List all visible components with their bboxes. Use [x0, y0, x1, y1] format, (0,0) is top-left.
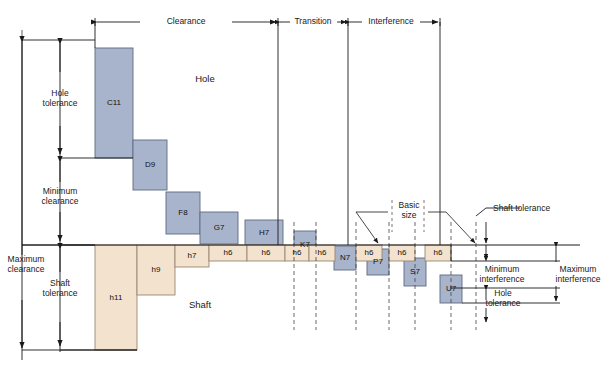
zone-label-h6-8: h6 [389, 248, 415, 257]
dimension-label-hole-tolerance: Hole tolerance [26, 88, 94, 108]
zone-label-p7-7: P7 [367, 257, 389, 266]
dimension-label-hole-tolerance-right: Hole tolerance [467, 288, 539, 308]
zone-label-h6-3: h6 [209, 248, 247, 257]
zone-label-s7-8: S7 [404, 267, 426, 276]
region-label-clearance: Clearance [150, 16, 222, 26]
zone-label-h6-6: h6 [309, 248, 335, 257]
region-label-interference: Interference [362, 16, 420, 26]
dimension-label-shaft-tolerance-right: Shaft tolerance [493, 203, 577, 213]
tolerance-zone-rects [95, 48, 462, 350]
area-label-shaft: Shaft [180, 300, 220, 310]
dimension-label-minimum-interference: Minimum interference [455, 264, 549, 284]
basic-size-label: Basic size [391, 200, 427, 220]
zone-label-n7-6: N7 [334, 253, 356, 262]
zone-label-h6-9: h6 [425, 248, 451, 257]
dimension-label-minimum-clearance: Minimum clearance [24, 186, 96, 206]
zone-label-u7-9: U7 [440, 284, 462, 293]
dimension-label-maximum-clearance: Maximum clearance [0, 254, 58, 274]
zone-label-h6-4: h6 [247, 248, 285, 257]
fit-tolerance-diagram: Clearance Transition Interference Hole S… [0, 0, 609, 375]
region-divider-lines [95, 22, 440, 245]
area-label-hole: Hole [185, 74, 225, 84]
zone-label-d9-1: D9 [133, 160, 167, 169]
zone-label-h6-7: h6 [356, 248, 382, 257]
zone-label-h7-2: h7 [175, 251, 209, 260]
region-label-transition: Transition [289, 16, 337, 26]
zone-label-g7-3: G7 [200, 223, 238, 232]
dimension-label-maximum-interference: Maximum interference [546, 264, 609, 284]
zone-label-h9-1: h9 [137, 265, 175, 274]
dimension-label-shaft-tolerance: Shaft tolerance [26, 278, 94, 298]
zone-label-c11-0: C11 [95, 98, 133, 107]
zone-label-h11-0: h11 [95, 293, 137, 302]
zone-label-h6-5: h6 [285, 248, 309, 257]
zone-label-h7-4: H7 [245, 228, 283, 237]
zone-label-f8-2: F8 [166, 208, 200, 217]
